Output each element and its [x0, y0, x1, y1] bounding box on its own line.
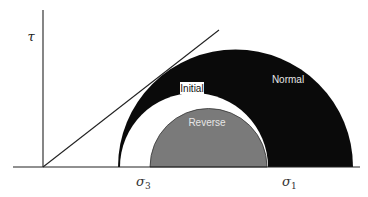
normal-region-label: Normal: [272, 74, 304, 85]
sigma1-label: σ1: [282, 174, 297, 191]
initial-region-label: Initial: [180, 83, 203, 94]
tau-axis-label: τ: [27, 29, 35, 44]
mohr-circle-diagram: τ σ3 σ1 Normal Initial Reverse: [0, 0, 368, 197]
sigma3-label: σ3: [136, 174, 151, 191]
reverse-region-label: Reverse: [188, 117, 226, 128]
